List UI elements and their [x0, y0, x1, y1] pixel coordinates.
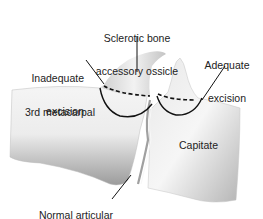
label-normal-articular-cartilage: Normal articular cartilage	[30, 188, 113, 219]
label-adequate-excision: Adequate excision	[200, 38, 254, 126]
label-adequate-line2: excision	[200, 93, 254, 104]
label-cartilage-line1: Normal articular	[30, 210, 113, 219]
diagram-canvas: Sclerotic bone accessory ossicle Inadequ…	[0, 0, 263, 219]
label-sclerotic-bone: Sclerotic bone accessory ossicle	[92, 11, 182, 99]
label-capitate: Capitate	[179, 140, 218, 151]
label-3rd-metacarpal: 3rd metacarpal	[25, 107, 95, 118]
label-inadequate-excision: Inadequate excision	[26, 51, 84, 139]
label-adequate-line1: Adequate	[200, 60, 254, 71]
label-inadequate-line1: Inadequate	[26, 73, 84, 84]
label-sclerotic-line1: Sclerotic bone	[92, 33, 182, 44]
label-sclerotic-line2: accessory ossicle	[92, 66, 182, 77]
